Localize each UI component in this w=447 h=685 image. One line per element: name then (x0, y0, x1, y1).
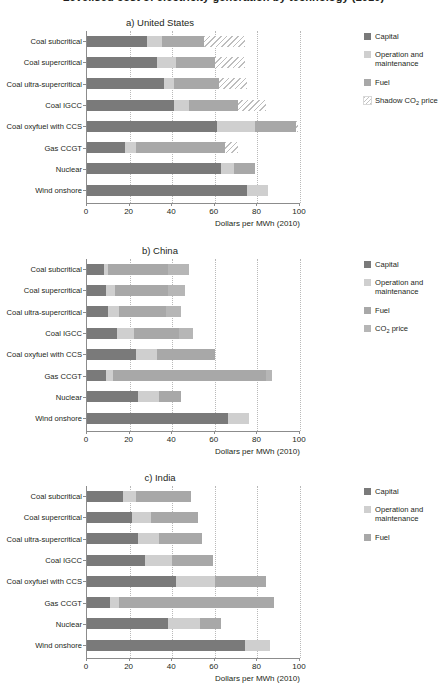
y-tick-1 (83, 62, 87, 63)
panel-title-b: b) China (0, 245, 320, 256)
bar-segment-capital (87, 413, 228, 424)
bar-b-0 (87, 264, 300, 275)
x-axis-line (86, 203, 300, 204)
y-tick-0 (83, 496, 87, 497)
x-tick-label-100: 100 (284, 207, 314, 216)
bar-segment-om (247, 185, 268, 196)
panel-title-c: c) India (0, 472, 320, 483)
legend-swatch-fuel-icon (364, 79, 371, 86)
legend-swatch-om-icon (364, 51, 371, 58)
x-tick-label-60: 60 (199, 207, 229, 216)
bar-segment-om (138, 533, 159, 544)
bar-segment-capital (87, 618, 168, 629)
x-tick-60 (214, 658, 215, 661)
legend-swatch-fuel-icon (364, 307, 371, 314)
x-tick-80 (256, 203, 257, 206)
bar-a-2 (87, 78, 300, 89)
bar-a-0 (87, 36, 300, 47)
legend-swatch-om-icon (364, 506, 371, 513)
legend-swatch-om-icon (364, 279, 371, 286)
bar-segment-co2 (166, 306, 181, 317)
y-axis-label-7: Wind onshore (0, 186, 82, 195)
x-axis-line (86, 658, 300, 659)
x-tick-label-20: 20 (114, 207, 144, 216)
bar-b-2 (87, 306, 300, 317)
y-axis-label-6: Nuclear (0, 393, 82, 402)
bar-segment-fuel (151, 512, 198, 523)
x-tick-0 (86, 431, 87, 434)
y-tick-3 (83, 105, 87, 106)
x-tick-label-40: 40 (156, 435, 186, 444)
bar-segment-om (217, 121, 255, 132)
bar-segment-co2 (266, 370, 272, 381)
bar-segment-capital (87, 142, 125, 153)
bar-segment-fuel (113, 370, 266, 381)
bar-segment-fuel (215, 576, 266, 587)
bar-segment-om (228, 413, 249, 424)
gridline-100 (300, 31, 301, 203)
bar-segment-fuel (119, 597, 274, 608)
bar-segment-fuel (162, 36, 205, 47)
bar-a-5 (87, 142, 300, 153)
bar-segment-fuel (255, 121, 295, 132)
bar-a-1 (87, 57, 300, 68)
x-tick-label-60: 60 (199, 662, 229, 671)
y-axis-label-3: Coal IGCC (0, 329, 82, 338)
x-tick-label-60: 60 (199, 435, 229, 444)
bar-segment-fuel (174, 78, 219, 89)
legend-swatch-capital-icon (364, 261, 371, 268)
y-tick-5 (83, 376, 87, 377)
plot-area-a (86, 31, 300, 203)
y-axis-label-0: Coal subcritical (0, 265, 82, 274)
y-axis-label-2: Coal ultra-supercritical (0, 535, 82, 544)
y-axis-label-3: Coal IGCC (0, 101, 82, 110)
y-tick-2 (83, 84, 87, 85)
bar-segment-fuel (159, 533, 202, 544)
bar-b-1 (87, 285, 300, 296)
legend-label-capital: Capital (375, 487, 447, 496)
plot-area-b (86, 259, 300, 431)
bar-segment-fuel (134, 328, 179, 339)
bar-segment-shadow (204, 36, 244, 47)
bar-segment-capital (87, 185, 247, 196)
y-axis-label-1: Coal supercritical (0, 58, 82, 67)
bar-segment-om (108, 306, 119, 317)
panel-title-a: a) United States (0, 17, 320, 28)
bar-segment-om (123, 491, 136, 502)
y-axis-label-5: Gas CCGT (0, 372, 82, 381)
legend-swatch-capital-icon (364, 33, 371, 40)
x-tick-100 (299, 658, 300, 661)
y-axis-label-0: Coal subcritical (0, 492, 82, 501)
bar-segment-shadow (296, 121, 298, 132)
y-axis-label-1: Coal supercritical (0, 286, 82, 295)
bar-segment-fuel (176, 57, 214, 68)
bar-segment-om (164, 78, 175, 89)
y-tick-6 (83, 624, 87, 625)
x-tick-label-0: 0 (71, 662, 101, 671)
y-axis-label-0: Coal subcritical (0, 37, 82, 46)
bar-segment-capital (87, 78, 164, 89)
gridline-100 (300, 259, 301, 431)
legend-swatch-co2-icon (364, 325, 371, 332)
legend-label-fuel: Fuel (375, 78, 447, 87)
y-tick-3 (83, 560, 87, 561)
bar-b-7 (87, 413, 300, 424)
y-axis-label-3: Coal IGCC (0, 556, 82, 565)
bar-segment-shadow (215, 57, 245, 68)
y-axis-label-2: Coal ultra-supercritical (0, 80, 82, 89)
x-tick-label-0: 0 (71, 207, 101, 216)
bar-segment-om (106, 285, 115, 296)
bar-segment-co2 (168, 285, 185, 296)
y-axis-label-5: Gas CCGT (0, 144, 82, 153)
y-tick-6 (83, 169, 87, 170)
x-tick-20 (129, 658, 130, 661)
y-tick-7 (83, 645, 87, 646)
bar-segment-shadow (225, 142, 238, 153)
bar-b-4 (87, 349, 300, 360)
bar-segment-capital (87, 100, 174, 111)
y-axis-label-6: Nuclear (0, 165, 82, 174)
x-tick-label-20: 20 (114, 662, 144, 671)
bar-a-6 (87, 163, 300, 174)
bar-b-5 (87, 370, 300, 381)
y-axis-label-5: Gas CCGT (0, 599, 82, 608)
